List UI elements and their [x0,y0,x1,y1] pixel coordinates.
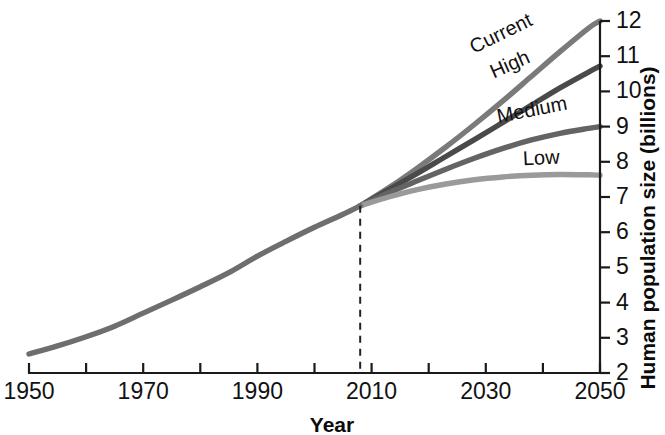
series-label-high: High [486,45,533,82]
x-tick-label-1950: 1950 [3,378,54,404]
series-line-high [360,66,600,206]
population-projection-chart: 19501970199020102030205023456789101112 C… [0,0,665,435]
y-tick-label-6: 6 [616,218,629,244]
y-tick-label-9: 9 [616,113,629,139]
y-tick-label-3: 3 [616,324,629,350]
x-axis-title: Year [310,413,354,435]
x-tick-label-1990: 1990 [232,378,283,404]
x-tick-label-2030: 2030 [460,378,511,404]
x-tick-label-2010: 2010 [346,378,397,404]
series-line-historical [29,206,360,354]
y-tick-label-7: 7 [616,183,629,209]
y-tick-label-2: 2 [616,359,629,385]
x-tick-label-1970: 1970 [118,378,169,404]
y-axis-title: Human population size (billions) [636,66,659,389]
y-tick-label-8: 8 [616,148,629,174]
y-tick-label-12: 12 [616,7,642,33]
y-tick-label-4: 4 [616,289,629,315]
chart-canvas: 19501970199020102030205023456789101112 C… [0,0,665,435]
y-tick-label-11: 11 [616,42,640,68]
series-label-low: Low [522,145,560,169]
y-tick-label-5: 5 [616,253,629,279]
